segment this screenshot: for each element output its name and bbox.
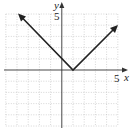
function-curve bbox=[18, 14, 118, 71]
axes bbox=[4, 2, 128, 128]
graph: y 5 5 x bbox=[0, 0, 131, 132]
x-axis-label: x bbox=[123, 71, 129, 83]
y-tick-5: 5 bbox=[54, 10, 60, 22]
x-tick-5: 5 bbox=[114, 72, 120, 84]
